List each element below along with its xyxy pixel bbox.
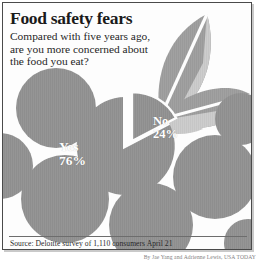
pie-label-yes: Yes 76% [59,140,86,168]
pie-label-yes-name: Yes [59,140,86,154]
infographic-frame: #infographic circle[data-name^="apple-"]… [2,2,252,250]
pie-label-no-value: 24% [153,128,178,141]
deck-line-2: are you more concerned about [10,43,162,56]
deck-line-3: the food you eat? [10,55,162,68]
page-title: Food safety fears [10,9,132,27]
source-note: Source: Deloitte survey of 1,110 consume… [10,239,173,248]
question-deck: Compared with five years ago, are you mo… [10,30,162,68]
pie-label-no-name: No [153,115,178,128]
byline: By Jae Yang and Adrienne Lewis, USA TODA… [0,254,256,260]
pie-label-no: No 24% [153,115,178,141]
pie-label-yes-value: 76% [59,154,86,168]
source-divider [9,236,247,237]
deck-line-1: Compared with five years ago, [10,30,162,43]
infographic-usatoday-snapshot: #infographic circle[data-name^="apple-"]… [0,0,260,265]
